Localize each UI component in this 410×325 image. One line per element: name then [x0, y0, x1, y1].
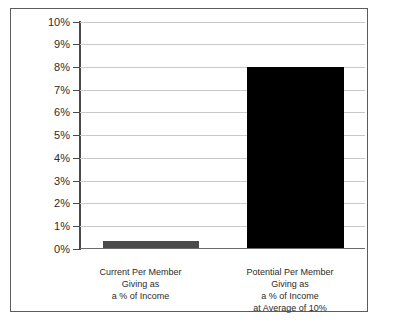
y-tick-mark-6 — [73, 112, 80, 113]
category-label-potential-line-1: Potential Per Member — [215, 266, 365, 278]
category-label-potential-line-2: Giving as — [215, 278, 365, 290]
bar-current-per-member-giving[interactable] — [103, 241, 199, 248]
y-tick-label-2: 2% — [36, 198, 70, 209]
gridline-10 — [80, 22, 365, 23]
category-label-potential: Potential Per Member Giving as a % of In… — [215, 266, 365, 314]
y-tick-mark-3 — [73, 181, 80, 182]
category-label-current-line-2: Giving as — [68, 278, 213, 290]
y-tick-label-4: 4% — [36, 153, 70, 164]
y-tick-mark-1 — [73, 226, 80, 227]
y-tick-label-0: 0% — [36, 244, 70, 255]
y-tick-label-10: 10% — [36, 17, 70, 28]
category-label-current-line-1: Current Per Member — [68, 266, 213, 278]
y-tick-mark-10 — [73, 22, 80, 23]
category-label-current-line-3: a % of Income — [68, 290, 213, 302]
y-tick-mark-0 — [73, 249, 80, 250]
y-tick-mark-4 — [73, 158, 80, 159]
y-tick-label-6: 6% — [36, 107, 70, 118]
bar-potential-per-member-giving[interactable] — [247, 67, 344, 248]
y-tick-mark-7 — [73, 90, 80, 91]
category-label-potential-line-3: a % of Income — [215, 290, 365, 302]
y-tick-label-7: 7% — [36, 85, 70, 96]
gridline-9 — [80, 44, 365, 45]
gridline-baseline-0 — [80, 248, 365, 249]
y-tick-mark-9 — [73, 44, 80, 45]
category-label-potential-line-4: at Average of 10% — [215, 302, 365, 314]
y-tick-mark-5 — [73, 135, 80, 136]
y-tick-label-8: 8% — [36, 62, 70, 73]
y-tick-label-9: 9% — [36, 39, 70, 50]
y-tick-label-1: 1% — [36, 221, 70, 232]
y-tick-mark-2 — [73, 203, 80, 204]
y-tick-mark-8 — [73, 67, 80, 68]
plot-area — [80, 22, 365, 249]
y-tick-label-5: 5% — [36, 130, 70, 141]
bar-chart-figure: 10% 9% 8% 7% 6% 5% 4% 3% 2% 1% 0% Curren… — [0, 0, 410, 325]
y-tick-label-3: 3% — [36, 176, 70, 187]
category-label-current: Current Per Member Giving as a % of Inco… — [68, 266, 213, 302]
